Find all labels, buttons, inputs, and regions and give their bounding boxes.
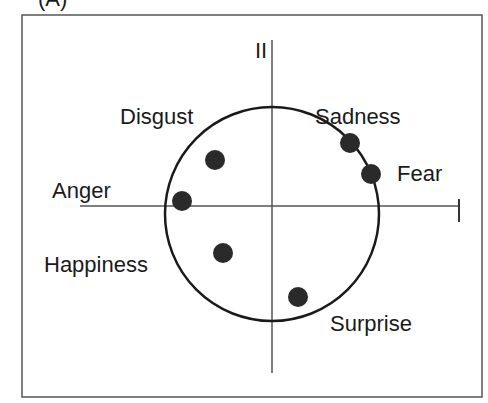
dot-fear	[361, 164, 381, 184]
label-fear: Fear	[397, 163, 442, 185]
dot-surprise	[288, 287, 308, 307]
label-disgust: Disgust	[120, 106, 193, 128]
dot-anger	[172, 191, 192, 211]
axis-ii-label: II	[255, 40, 267, 62]
dot-happiness	[213, 243, 233, 263]
label-surprise: Surprise	[330, 313, 412, 335]
dot-disgust	[205, 150, 225, 170]
label-sadness: Sadness	[315, 106, 401, 128]
label-happiness: Happiness	[44, 254, 148, 276]
dot-sadness	[340, 133, 360, 153]
label-anger: Anger	[52, 180, 111, 202]
